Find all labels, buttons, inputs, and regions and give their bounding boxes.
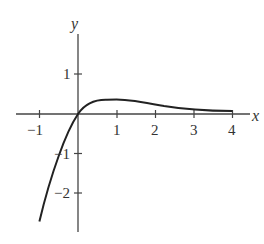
- x-tick-label: 1: [113, 122, 121, 138]
- x-axis-label: x: [251, 107, 259, 124]
- x-tick-label: −1: [27, 122, 43, 138]
- y-tick-label: 1: [63, 66, 71, 82]
- function-plot: y x −1 1 2 3 4 1 −1 −2: [0, 0, 264, 244]
- x-tick-label: 4: [228, 122, 236, 138]
- x-tick-label: 3: [190, 122, 198, 138]
- y-axis-label: y: [69, 15, 79, 33]
- y-tick-label: −2: [54, 185, 70, 201]
- x-tick-label: 2: [151, 122, 159, 138]
- y-tick-label: −1: [54, 146, 70, 162]
